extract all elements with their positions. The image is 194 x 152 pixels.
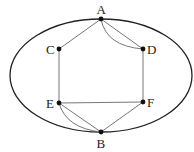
label-b: B (97, 136, 106, 151)
label-c: C (46, 42, 55, 57)
node-c (57, 47, 62, 52)
node-f (141, 100, 146, 105)
label-e: E (46, 96, 54, 111)
label-d: D (147, 42, 156, 57)
edge-e-f (59, 102, 143, 103)
node-a (99, 17, 104, 22)
boundary-ellipse (10, 19, 192, 132)
label-a: A (97, 2, 107, 17)
node-e (57, 101, 62, 106)
node-d (141, 47, 146, 52)
label-f: F (147, 95, 154, 110)
node-b (99, 130, 104, 135)
graph-diagram: A C D E F B (0, 0, 194, 152)
